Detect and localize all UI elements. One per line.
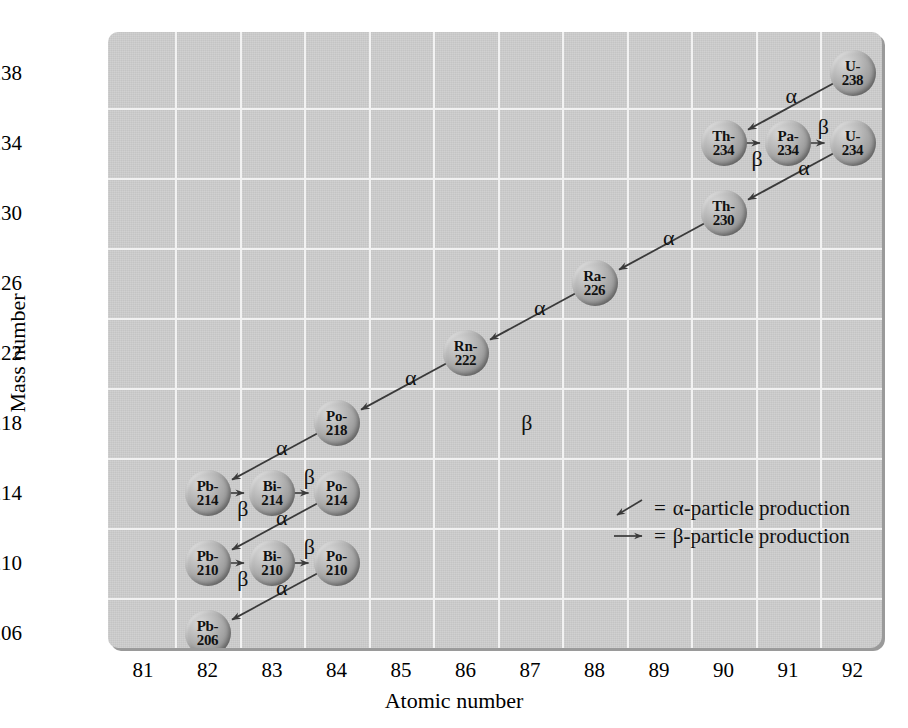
decay-type-label-alpha: α	[785, 83, 797, 109]
nuclide-node-pb-214[interactable]: Pb-214	[185, 470, 231, 516]
y-axis-tick-label: 238	[0, 61, 22, 86]
decay-type-label-alpha: α	[534, 295, 546, 321]
nuclide-mass-number: 230	[713, 213, 735, 227]
nuclide-node-pb-206[interactable]: Pb-206	[185, 610, 231, 648]
nuclide-element-symbol: Pb-	[197, 549, 219, 563]
nuclide-mass-number: 210	[261, 563, 283, 577]
decay-arrow-alpha-th-230-to-ra-226	[619, 223, 704, 269]
nuclide-mass-number: 234	[713, 143, 735, 157]
nuclide-element-symbol: Pa-	[778, 129, 799, 143]
nuclide-mass-number: 234	[842, 143, 864, 157]
nuclide-node-bi-210[interactable]: Bi-210	[249, 540, 295, 586]
nuclide-node-ra-226[interactable]: Ra-226	[572, 260, 618, 306]
nuclide-mass-number: 238	[842, 73, 864, 87]
y-axis-tick-label: 210	[0, 551, 22, 576]
x-axis-tick-label: 85	[371, 658, 431, 683]
nuclide-node-po-214[interactable]: Po-214	[314, 470, 360, 516]
legend: = α-particle production = β-particle pro…	[606, 494, 850, 550]
nuclide-element-symbol: Po-	[326, 409, 347, 423]
nuclide-mass-number: 218	[326, 423, 348, 437]
decay-arrow-alpha-ra-226-to-rn-222	[490, 293, 575, 339]
nuclide-node-po-218[interactable]: Po-218	[314, 400, 360, 446]
x-axis-tick-label: 88	[565, 658, 625, 683]
x-axis-tick-label: 83	[242, 658, 302, 683]
decay-type-label-beta: β	[818, 114, 829, 140]
decay-type-label-beta: β	[237, 496, 248, 522]
nuclide-element-symbol: Ra-	[583, 269, 605, 283]
x-axis-tick-label: 86	[436, 658, 496, 683]
nuclide-node-th-230[interactable]: Th-230	[701, 190, 747, 236]
x-axis-tick-label: 87	[500, 658, 560, 683]
nuclide-mass-number: 214	[197, 493, 219, 507]
x-axis-tick-label: 81	[113, 658, 173, 683]
nuclide-element-symbol: U-	[845, 129, 860, 143]
decay-type-label-alpha: α	[405, 365, 417, 391]
nuclide-element-symbol: Bi-	[263, 479, 281, 493]
nuclide-node-th-234[interactable]: Th-234	[701, 120, 747, 166]
nuclide-mass-number: 234	[777, 143, 799, 157]
decay-type-label-alpha: α	[663, 225, 675, 251]
nuclide-element-symbol: U-	[845, 59, 860, 73]
nuclide-mass-number: 222	[455, 353, 477, 367]
nuclide-node-pb-210[interactable]: Pb-210	[185, 540, 231, 586]
nuclide-element-symbol: Po-	[326, 479, 347, 493]
decay-arrow-alpha-rn-222-to-po-218	[361, 363, 446, 409]
nuclide-mass-number: 210	[326, 563, 348, 577]
nuclide-mass-number: 214	[261, 493, 283, 507]
x-axis-tick-label: 90	[694, 658, 754, 683]
nuclide-element-symbol: Th-	[712, 199, 734, 213]
legend-label-beta: β-particle production	[673, 524, 850, 549]
nuclide-element-symbol: Pb-	[197, 619, 219, 633]
legend-row-alpha: = α-particle production	[606, 494, 850, 522]
plot-panel: U-238Th-234Pa-234U-234Th-230Ra-226Rn-222…	[108, 32, 882, 648]
beta-arrow-icon	[606, 524, 652, 548]
y-axis-tick-label: 234	[0, 131, 22, 156]
y-axis-tick-label: 206	[0, 621, 22, 646]
x-axis-tick-label: 92	[823, 658, 883, 683]
nuclide-element-symbol: Bi-	[263, 549, 281, 563]
legend-label-alpha: α-particle production	[673, 496, 850, 521]
nuclide-element-symbol: Pb-	[197, 479, 219, 493]
decay-type-label-beta: β	[751, 146, 762, 172]
x-axis-tick-label: 84	[307, 658, 367, 683]
x-axis-tick-label: 89	[629, 658, 689, 683]
decay-type-label-beta: β	[237, 566, 248, 592]
nuclide-element-symbol: Th-	[712, 129, 734, 143]
nuclide-mass-number: 226	[584, 283, 606, 297]
alpha-arrow-icon	[606, 496, 652, 520]
nuclide-mass-number: 214	[326, 493, 348, 507]
nuclide-mass-number: 206	[197, 633, 219, 647]
decay-series-diagram: U-238Th-234Pa-234U-234Th-230Ra-226Rn-222…	[0, 0, 908, 728]
nuclide-element-symbol: Rn-	[454, 339, 477, 353]
x-axis-tick-label: 82	[178, 658, 238, 683]
legend-equals-beta: =	[652, 524, 673, 549]
stray-decay-label: β	[521, 410, 532, 436]
nuclide-node-rn-222[interactable]: Rn-222	[443, 330, 489, 376]
nuclide-node-u-234[interactable]: U-234	[830, 120, 876, 166]
x-axis-title: Atomic number	[0, 688, 908, 714]
legend-row-beta: = β-particle production	[606, 522, 850, 550]
nuclide-node-bi-214[interactable]: Bi-214	[249, 470, 295, 516]
nuclide-node-po-210[interactable]: Po-210	[314, 540, 360, 586]
y-axis-title: Mass number	[5, 203, 31, 503]
legend-equals-alpha: =	[652, 496, 673, 521]
nuclide-mass-number: 210	[197, 563, 219, 577]
nuclide-element-symbol: Po-	[326, 549, 347, 563]
nuclide-node-u-238[interactable]: U-238	[830, 50, 876, 96]
nuclide-node-pa-234[interactable]: Pa-234	[765, 120, 811, 166]
x-axis-tick-label: 91	[758, 658, 818, 683]
decay-type-label-alpha: α	[276, 435, 288, 461]
